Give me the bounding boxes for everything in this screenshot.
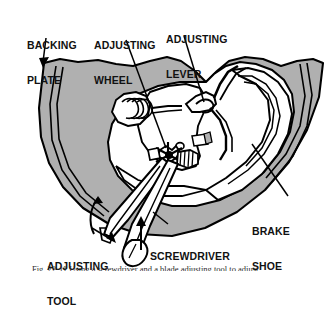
label-adjusting-lever-line1: ADJUSTING [166, 34, 228, 46]
label-backing-plate-line2: PLATE [27, 75, 77, 87]
label-adjusting-wheel: ADJUSTING WHEEL [94, 17, 156, 109]
label-adjusting-wheel-line2: WHEEL [94, 75, 156, 87]
label-brake-shoe-line1: BRAKE [252, 226, 290, 238]
label-backing-plate-line1: BACKING [27, 40, 77, 52]
label-adjusting-lever-line2: LEVER [166, 69, 228, 81]
label-adjusting-wheel-line1: ADJUSTING [94, 40, 156, 52]
label-screwdriver-line1: SCREWDRIVER [150, 251, 230, 263]
label-brake-shoe: BRAKE SHOE [252, 203, 290, 295]
figure-caption: Fig. 22-11 Using a screwdriver and a bla… [32, 264, 332, 271]
label-adjusting-tool-line2: TOOL [47, 296, 109, 308]
label-screwdriver: SCREWDRIVER [150, 228, 230, 286]
label-adjusting-tool: ADJUSTING TOOL [47, 238, 109, 309]
label-adjusting-lever: ADJUSTING LEVER [166, 11, 228, 103]
label-backing-plate: BACKING PLATE [27, 17, 77, 109]
